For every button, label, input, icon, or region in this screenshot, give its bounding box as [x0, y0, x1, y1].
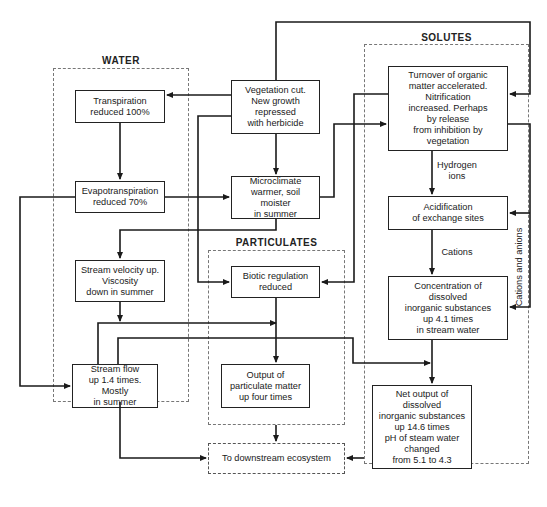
- node-stream-flow: Stream flow up 1.4 times. Mostly in summ…: [72, 364, 158, 408]
- node-evapotranspiration: Evapotranspiration reduced 70%: [75, 181, 165, 213]
- node-downstream-ecosystem: To downstream ecosystem: [208, 443, 345, 474]
- node-acidification: Acidification of exchange sites: [388, 196, 508, 230]
- edge-label-cations: Cations: [432, 247, 482, 258]
- edge-label-cations-and-anions: Cations and anions: [514, 217, 526, 317]
- node-organic-turnover: Turnover of organic matter accelerated. …: [388, 66, 508, 151]
- node-stream-velocity: Stream velocity up. Viscosity down in su…: [75, 260, 165, 302]
- node-transpiration: Transpiration reduced 100%: [75, 90, 165, 123]
- node-net-output: Net output of dissolved inorganic substa…: [372, 385, 472, 469]
- group-water-title: WATER: [53, 55, 189, 66]
- edge-label-hydrogen-ions: Hydrogen ions: [432, 160, 482, 182]
- node-microclimate: Microclimate warmer, soil moister in sum…: [231, 176, 320, 219]
- node-particulate-output: Output of particulate matter up four tim…: [221, 364, 310, 408]
- node-concentration: Concentration of dissolved inorganic sub…: [388, 276, 508, 340]
- node-biotic-regulation: Biotic regulation reduced: [231, 266, 320, 298]
- node-vegetation-cut: Vegetation cut. New growth repressed wit…: [231, 80, 320, 134]
- group-particulates-title: PARTICULATES: [208, 237, 345, 248]
- group-solutes-title: SOLUTES: [364, 32, 529, 43]
- watershed-flow-diagram: WATER SOLUTES PARTICULATES Vegetation cu…: [0, 0, 547, 507]
